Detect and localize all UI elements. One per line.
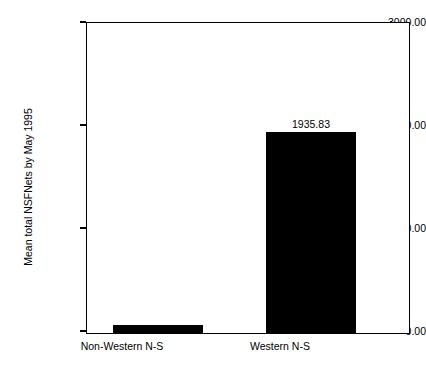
- plot-area: 1935.83: [86, 22, 410, 334]
- y-axis-title: Mean total NSFNets by May 1995: [20, 62, 36, 312]
- bar-western: [266, 132, 356, 333]
- bar-value-label-western: 1935.83: [251, 118, 371, 130]
- bar-chart: Mean total NSFNets by May 1995 3000.00 2…: [0, 0, 426, 379]
- x-category-label-non-western: Non-Western N-S: [52, 340, 192, 353]
- bar-non-western: [113, 325, 203, 333]
- bars-container: [87, 23, 409, 333]
- x-category-label-western: Western N-S: [215, 340, 345, 353]
